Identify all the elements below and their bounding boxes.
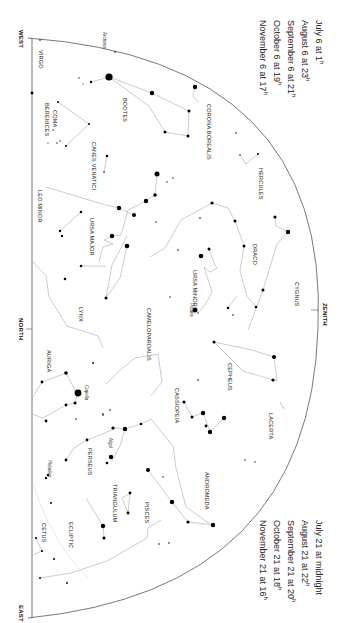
constellation-label: CEPHEUS — [227, 363, 233, 391]
constellation-label: CASSIOPEIA — [174, 388, 180, 423]
constellation-label: BOOTES — [122, 98, 128, 122]
direction-east: EAST — [18, 605, 24, 622]
time-row: August 21 at 22h — [299, 520, 313, 602]
constellation-label: VIRGO — [38, 50, 44, 69]
time-row: October 21 at 18h — [271, 520, 285, 602]
constellation-label: CYGNUS — [294, 282, 300, 307]
constellation-label: TRIANGULUM — [112, 484, 118, 522]
times-left-block: July 6 at 1h August 6 at 23h September 6… — [257, 20, 327, 97]
constellation-label: DRACO — [252, 244, 258, 265]
constellation-label: PERSEUS — [87, 448, 93, 476]
time-row: July 6 at 1h — [313, 20, 327, 97]
constellation-label: ECLIPTIC — [68, 522, 74, 548]
constellation-label: CANES VENATICI — [91, 142, 97, 190]
constellation-label: BERENICES — [44, 103, 50, 137]
constellation-label: HERCULES — [258, 168, 264, 200]
time-row: November 6 at 17h — [257, 20, 271, 97]
constellation-label: LYNX — [78, 307, 84, 322]
time-row: November 21 at 16h — [257, 520, 271, 602]
constellation-label: CORONA BOREALIS — [206, 104, 212, 160]
constellation-label: CETUS — [41, 523, 47, 543]
time-row: July 21 at midnight — [313, 520, 327, 602]
constellation-label: LACERTA — [268, 413, 274, 439]
star-name-label: Polaris — [189, 303, 194, 317]
star-name-label: Algol — [108, 438, 113, 448]
constellation-label: COMA — [52, 110, 58, 127]
constellation-label: URSA MAJOR — [89, 218, 95, 256]
constellation-label: ANDROMEDA — [204, 472, 210, 510]
constellation-label: LEO MINOR — [37, 190, 43, 223]
constellation-label: AURIGA — [46, 350, 52, 372]
constellation-label: PISCES — [144, 502, 150, 523]
times-right-block: July 21 at midnight August 21 at 22h Sep… — [257, 520, 327, 602]
time-row: October 6 at 19h — [271, 20, 285, 97]
constellation-label: URSA MINOR — [192, 270, 198, 307]
time-row: September 6 at 21h — [285, 20, 299, 97]
time-row: August 6 at 23h — [299, 20, 313, 97]
star-name-label: Arcturus — [102, 32, 107, 49]
direction-zenith: ZENITH — [322, 303, 328, 326]
constellation-label: CAMELOPARDALIS — [146, 308, 152, 361]
direction-west: WEST — [18, 30, 24, 48]
time-row: September 21 at 20h — [285, 520, 299, 602]
direction-north: NORTH — [18, 318, 24, 340]
star-name-label: Pleiades — [47, 460, 52, 477]
constellation-lines — [32, 77, 288, 578]
star-name-label: Capella — [84, 385, 89, 400]
